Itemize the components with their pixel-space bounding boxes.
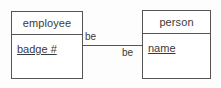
entity-header-employee: employee (12, 12, 82, 35)
entity-box-employee[interactable]: employee badge # (11, 11, 83, 79)
attribute-name: name (148, 42, 176, 56)
relationship-label-left: be (85, 32, 96, 42)
entity-name-employee: employee (23, 18, 72, 29)
attribute-badge-number: badge # (17, 43, 57, 57)
er-diagram-canvas: employee badge # person name be be (0, 0, 221, 88)
entity-header-person: person (143, 11, 210, 34)
entity-box-person[interactable]: person name (142, 10, 211, 79)
entity-body-person: name (143, 34, 210, 56)
relationship-label-right: be (122, 48, 133, 58)
entity-name-person: person (159, 17, 193, 28)
relationship-connector-line (83, 45, 142, 46)
entity-body-employee: badge # (12, 35, 82, 57)
